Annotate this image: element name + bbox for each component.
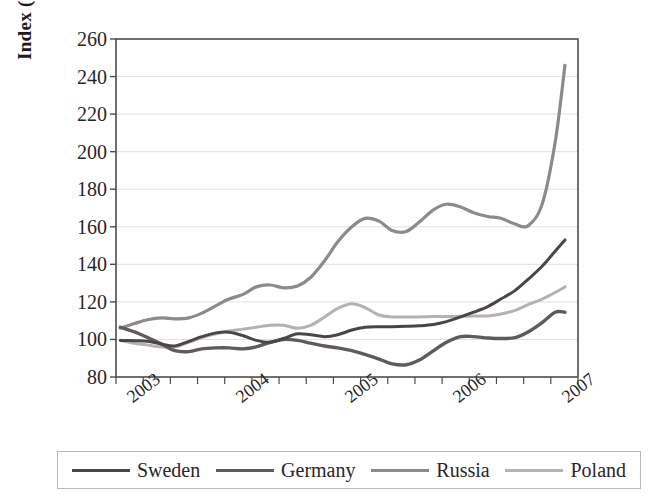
legend-label: Germany <box>281 460 355 480</box>
legend-line-swatch <box>505 469 563 472</box>
legend-line-swatch <box>72 469 130 472</box>
legend-item-germany[interactable]: Germany <box>216 460 355 480</box>
data-series-group <box>120 65 565 365</box>
legend-line-swatch <box>216 469 274 472</box>
plot-area <box>0 0 666 504</box>
legend-line-swatch <box>371 469 429 472</box>
plot-frame <box>116 39 578 377</box>
legend-label: Poland <box>570 460 626 480</box>
legend-item-sweden[interactable]: Sweden <box>72 460 200 480</box>
series-line-russia <box>120 65 565 328</box>
chart-legend: SwedenGermanyRussiaPoland <box>57 451 641 489</box>
legend-item-poland[interactable]: Poland <box>505 460 626 480</box>
legend-label: Sweden <box>137 460 200 480</box>
legend-item-russia[interactable]: Russia <box>371 460 489 480</box>
line-chart-figure: Index (2002=100) 80100120140160180200220… <box>0 0 666 504</box>
series-line-sweden <box>120 240 565 346</box>
legend-label: Russia <box>436 460 489 480</box>
